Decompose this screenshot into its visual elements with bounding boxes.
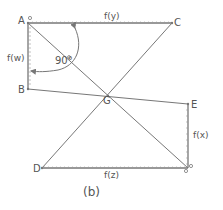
origin-mark-a bbox=[28, 16, 31, 19]
bottom-scale-ticks bbox=[44, 166, 186, 169]
vertex-e bbox=[187, 103, 189, 105]
label-f-w: f(w) bbox=[7, 53, 25, 63]
label-f-x: f(x) bbox=[193, 130, 209, 140]
vertex-d bbox=[41, 167, 43, 169]
origin-mark-f-bottom bbox=[184, 169, 187, 172]
label-g: G bbox=[103, 95, 111, 106]
vertex-a bbox=[27, 22, 29, 24]
figure-caption: (b) bbox=[83, 185, 100, 199]
diagram-canvas: A B C D E G f(y) f(w) f(x) f(z) 90° (b) bbox=[0, 0, 223, 210]
origin-mark-f-top bbox=[189, 164, 192, 167]
label-e: E bbox=[191, 99, 197, 110]
angle-label: 90° bbox=[55, 55, 73, 66]
label-f-y: f(y) bbox=[104, 11, 120, 21]
label-c: C bbox=[174, 17, 181, 28]
label-d: D bbox=[33, 163, 41, 174]
label-a: A bbox=[18, 15, 25, 26]
label-f-z: f(z) bbox=[104, 170, 119, 180]
vertex-b bbox=[27, 88, 29, 90]
vertex-c bbox=[171, 22, 173, 24]
top-scale-ticks bbox=[30, 21, 170, 24]
label-b: B bbox=[18, 84, 25, 95]
